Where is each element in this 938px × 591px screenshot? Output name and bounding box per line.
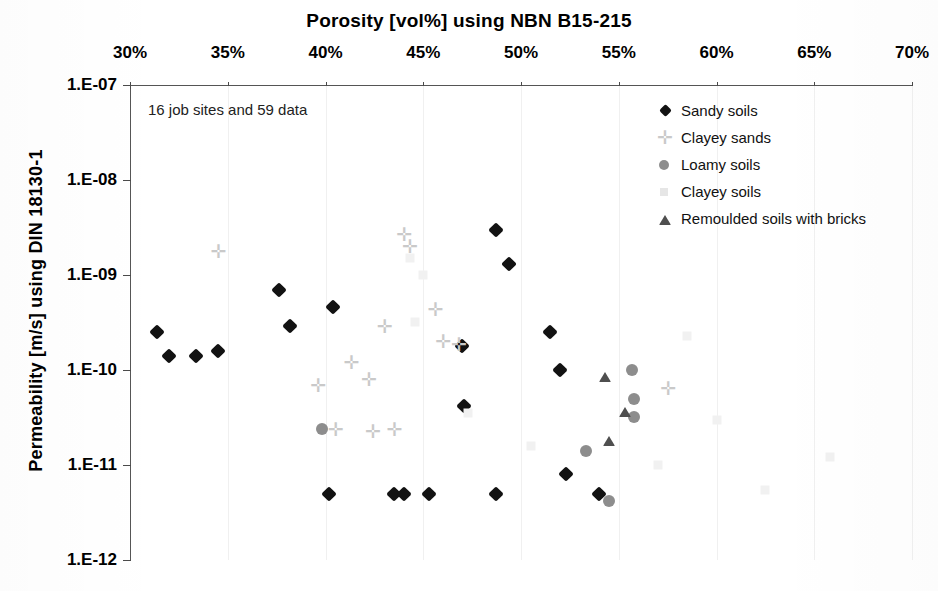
data-point: ✛ (361, 372, 376, 387)
chart-legend: Sandy soils✛Clayey sandsLoamy soilsClaye… (655, 97, 925, 232)
legend-item-label: Sandy soils (681, 103, 758, 118)
data-point (411, 318, 420, 327)
gridline (326, 86, 327, 560)
data-point (161, 348, 177, 364)
data-point (457, 398, 473, 414)
data-point (761, 485, 770, 494)
data-point (619, 407, 631, 417)
data-point (653, 461, 662, 470)
data-point (543, 324, 559, 340)
x-tick-label: 45% (406, 43, 440, 63)
data-point (558, 466, 574, 482)
data-point (825, 453, 834, 462)
data-point (552, 362, 568, 378)
data-point (580, 445, 592, 457)
data-point: ✛ (435, 334, 450, 349)
data-point: ✛ (396, 227, 411, 242)
data-point (603, 495, 615, 507)
data-point (396, 486, 412, 502)
data-point (405, 254, 414, 263)
data-point (464, 409, 473, 418)
y-tick-label: 1.E-12 (60, 550, 117, 570)
data-point (455, 338, 471, 354)
data-point (591, 486, 607, 502)
y-tick (123, 560, 131, 561)
gridline (521, 86, 522, 560)
data-point (386, 486, 402, 502)
y-tick (123, 85, 131, 86)
legend-item-cross[interactable]: ✛Clayey sands (655, 124, 925, 151)
gridline (228, 86, 229, 560)
y-tick (123, 275, 131, 276)
data-point: ✛ (365, 423, 380, 438)
data-point (150, 324, 166, 340)
square-marker (660, 188, 668, 196)
data-point: ✛ (343, 355, 358, 370)
legend-item-label: Clayey soils (681, 184, 761, 199)
chart-title: Porosity [vol%] using NBN B15-215 (0, 10, 938, 32)
triangle-icon (655, 211, 677, 227)
legend-item-square[interactable]: Clayey soils (655, 178, 925, 205)
legend-item-triangle[interactable]: Remoulded soils with bricks (655, 205, 925, 232)
data-point (599, 372, 611, 382)
y-axis-line (130, 85, 131, 561)
data-point: ✛ (310, 377, 325, 392)
cross-icon: ✛ (655, 130, 677, 146)
data-point (189, 348, 205, 364)
y-tick (123, 180, 131, 181)
data-point (628, 393, 640, 405)
data-point: ✛ (386, 421, 401, 436)
data-point: ✛ (427, 301, 442, 316)
data-point (271, 282, 287, 298)
legend-item-label: Remoulded soils with bricks (681, 211, 866, 226)
diamond-marker (659, 104, 672, 117)
data-point: ✛ (402, 239, 417, 254)
x-tick-label: 30% (113, 43, 147, 63)
triangle-marker (659, 215, 671, 225)
x-tick-label: 50% (504, 43, 538, 63)
data-point (210, 343, 226, 359)
y-tick-label: 1.E-08 (60, 170, 117, 190)
x-tick-label: 60% (699, 43, 733, 63)
data-point (283, 318, 299, 334)
data-point (488, 486, 504, 502)
data-point: ✛ (210, 243, 225, 258)
cross-marker: ✛ (657, 130, 672, 145)
data-point (526, 441, 535, 450)
legend-item-label: Loamy soils (681, 157, 760, 172)
data-point (488, 222, 504, 238)
data-point: ✛ (451, 336, 466, 351)
legend-item-diamond[interactable]: Sandy soils (655, 97, 925, 124)
y-tick-label: 1.E-10 (60, 360, 117, 380)
legend-item-circle[interactable]: Loamy soils (655, 151, 925, 178)
chart-figure: Porosity [vol%] using NBN B15-215 Permea… (0, 0, 938, 591)
gridline (423, 86, 424, 560)
data-point (626, 364, 638, 376)
data-point: ✛ (377, 319, 392, 334)
diamond-icon (655, 103, 677, 119)
data-point (501, 256, 517, 272)
y-tick (123, 370, 131, 371)
x-tick-label: 40% (308, 43, 342, 63)
circle-icon (655, 157, 677, 173)
data-point (628, 411, 640, 423)
square-icon (655, 184, 677, 200)
y-tick-label: 1.E-07 (60, 75, 117, 95)
y-tick-label: 1.E-11 (60, 455, 117, 475)
x-tick-label: 35% (211, 43, 245, 63)
x-tick-label: 65% (797, 43, 831, 63)
y-tick-label: 1.E-09 (60, 265, 117, 285)
scan-tint-overlay (0, 0, 938, 591)
x-tick-label: 55% (602, 43, 636, 63)
x-tick-label: 70% (895, 43, 929, 63)
y-tick (123, 465, 131, 466)
gridline (619, 86, 620, 560)
chart-annotation: 16 job sites and 59 data (148, 101, 307, 118)
y-axis-title: Permeability [m/s] using DIN 18130-1 (26, 61, 47, 561)
data-point (326, 299, 342, 315)
legend-item-label: Clayey sands (681, 130, 771, 145)
data-point (322, 486, 338, 502)
circle-marker (659, 160, 669, 170)
data-point: ✛ (660, 380, 675, 395)
data-point (683, 331, 692, 340)
